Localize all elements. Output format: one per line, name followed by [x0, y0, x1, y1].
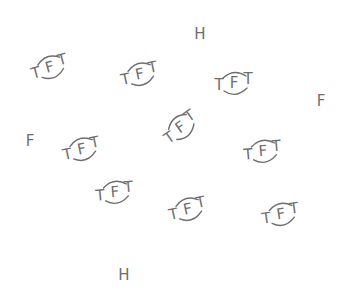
- atom-f-center: F: [43, 57, 56, 77]
- atom-f-center: F: [182, 199, 194, 218]
- tft-molecule: TFT: [241, 136, 283, 164]
- atom-f: F: [26, 132, 35, 150]
- atom-t-left: T: [260, 208, 273, 227]
- tft-molecule: TFT: [26, 49, 71, 83]
- atom-t-right: T: [55, 49, 70, 69]
- atom-f-center: F: [134, 64, 146, 83]
- atom-f-center: F: [230, 74, 239, 92]
- atom-h: H: [118, 266, 129, 284]
- atom-t-left: T: [60, 144, 75, 164]
- tft-molecule: TFT: [93, 177, 135, 205]
- atom-h: H: [194, 25, 205, 43]
- atom-t-right: T: [193, 192, 208, 212]
- atom-t-right: T: [242, 70, 253, 88]
- atom-t-right: T: [145, 57, 160, 77]
- tft-molecule: TFT: [156, 105, 203, 148]
- atom-t-left: T: [160, 127, 179, 148]
- atom-f-center: F: [275, 204, 286, 223]
- atom-f-center: F: [76, 139, 88, 158]
- atom-t-left: T: [28, 63, 43, 83]
- tft-molecule: TFT: [59, 132, 103, 164]
- tft-molecule: TFT: [213, 70, 253, 94]
- tft-molecule: TFT: [117, 57, 161, 89]
- atom-t-right: T: [287, 198, 300, 217]
- tft-molecule: TFT: [165, 192, 209, 224]
- atom-f-center: F: [110, 183, 120, 202]
- atom-t-right: T: [270, 136, 283, 155]
- atom-t-left: T: [213, 76, 224, 94]
- atom-t-right: T: [122, 177, 135, 196]
- atom-t-left: T: [166, 204, 181, 224]
- tft-molecule: TFT: [259, 198, 302, 228]
- molecule-diagram: TFTTFTTFTTFTTFTTFTTFTTFTTFTHFFH H F F H: [0, 0, 341, 292]
- atom-t-right: T: [87, 132, 102, 152]
- atom-f: F: [317, 92, 326, 110]
- atom-t-left: T: [94, 186, 107, 205]
- diagram-svg: TFTTFTTFTTFTTFTTFTTFTTFTTFTHFFH: [0, 0, 341, 292]
- atom-f-center: F: [258, 142, 268, 161]
- atom-t-left: T: [242, 145, 255, 164]
- atom-t-left: T: [118, 69, 133, 89]
